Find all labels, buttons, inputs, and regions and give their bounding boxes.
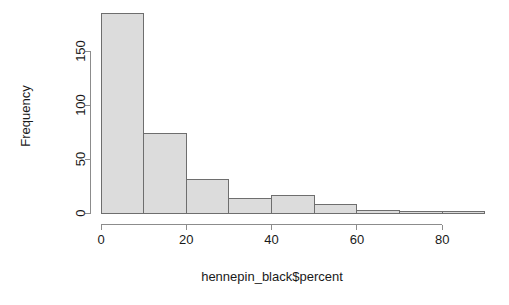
bars-group: 0-10: 18510-20: 7420-30: 3130-40: 1340-5…	[101, 13, 485, 213]
histogram-bar: 20-30: 31	[186, 180, 229, 213]
x-axis: 020406080	[97, 225, 449, 247]
y-axis-tick-label: 100	[73, 94, 88, 116]
histogram-bar: 10-20: 74	[144, 133, 187, 213]
x-axis-title: hennepin_black$percent	[201, 269, 343, 284]
histogram-bar: 60-70: 2	[357, 211, 400, 213]
plot-canvas: 0-10: 18510-20: 7420-30: 3130-40: 1340-5…	[0, 0, 509, 305]
x-axis-tick-label: 60	[350, 232, 364, 247]
y-axis-title: Frequency	[18, 85, 33, 147]
x-axis-tick-label: 20	[179, 232, 193, 247]
x-axis-tick-label: 40	[264, 232, 278, 247]
histogram-bar: 0-10: 185	[101, 13, 144, 213]
histogram-bar: 50-60: 8	[314, 204, 357, 213]
y-axis-tick-label: 0	[73, 209, 88, 216]
y-axis: 050100150	[73, 40, 91, 216]
histogram-bar: 40-50: 16	[272, 196, 315, 213]
y-axis-tick-label: 50	[73, 152, 88, 166]
y-axis-tick-label: 150	[73, 40, 88, 62]
histogram-bar: 30-40: 13	[229, 199, 272, 213]
x-axis-tick-label: 80	[435, 232, 449, 247]
histogram-bar: 80-90: 1	[442, 212, 485, 213]
histogram-plot: 0-10: 18510-20: 7420-30: 3130-40: 1340-5…	[0, 0, 509, 305]
x-axis-tick-label: 0	[97, 232, 104, 247]
histogram-bar: 70-80: 1	[400, 212, 443, 213]
